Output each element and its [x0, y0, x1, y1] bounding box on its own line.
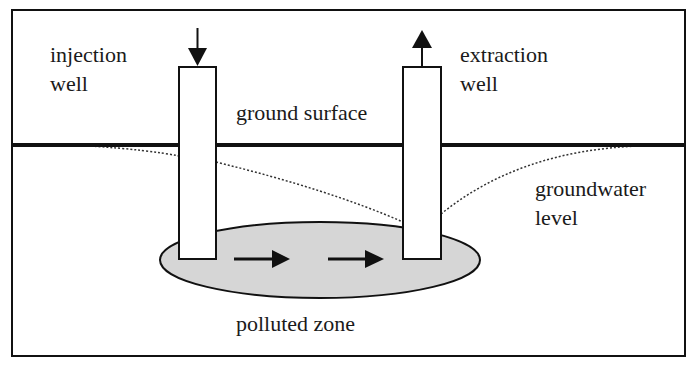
groundwater-level-label-line1: groundwater [535, 176, 647, 201]
extraction-well [403, 67, 441, 259]
injection-well-label-line1: injection [50, 42, 127, 67]
injection-well-label-line2: well [50, 71, 88, 96]
injection-well [179, 67, 216, 259]
remediation-diagram: injection well extraction well ground su… [0, 0, 694, 365]
extraction-well-label-line1: extraction [460, 42, 548, 67]
polluted-zone-label: polluted zone [236, 311, 355, 336]
groundwater-level-label-line2: level [535, 205, 578, 230]
extraction-well-label-line2: well [460, 71, 498, 96]
ground-surface-label: ground surface [236, 100, 367, 125]
